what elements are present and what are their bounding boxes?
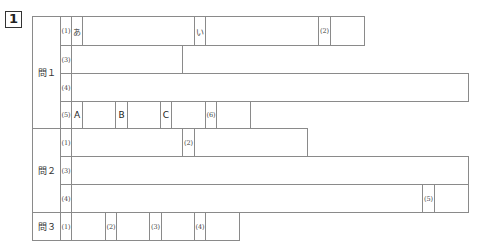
answer-q1-3[interactable] xyxy=(71,45,183,74)
question-number-badge: 1 xyxy=(5,11,22,28)
section-label-q2: 問２ xyxy=(32,128,61,213)
answer-q2-1[interactable] xyxy=(71,128,183,157)
answer-q1-5-a[interactable] xyxy=(82,101,116,129)
answer-q3-2[interactable] xyxy=(116,212,150,241)
section-label-text: 問２ xyxy=(38,164,56,177)
answer-q3-4[interactable] xyxy=(205,212,240,241)
answer-q3-1[interactable] xyxy=(71,212,106,241)
answer-q2-3[interactable] xyxy=(71,156,469,185)
answer-q1-6[interactable] xyxy=(216,101,251,129)
answer-q1-4[interactable] xyxy=(71,73,469,102)
answer-q2-4[interactable] xyxy=(71,184,423,213)
answer-q1-2[interactable] xyxy=(330,16,365,46)
answer-q3-3[interactable] xyxy=(161,212,195,241)
answer-q1-5-c[interactable] xyxy=(171,101,206,129)
section-label-q3: 問３ xyxy=(32,212,61,241)
section-label-text: 問１ xyxy=(38,66,56,79)
answer-q1-1-i[interactable] xyxy=(205,16,319,46)
answer-q2-2[interactable] xyxy=(194,128,308,157)
answer-q1-5-b[interactable] xyxy=(127,101,161,129)
answer-q2-5[interactable] xyxy=(434,184,469,213)
answer-q1-1-a[interactable] xyxy=(82,16,195,46)
section-label-text: 問３ xyxy=(38,220,56,233)
section-label-q1: 問１ xyxy=(32,16,61,129)
